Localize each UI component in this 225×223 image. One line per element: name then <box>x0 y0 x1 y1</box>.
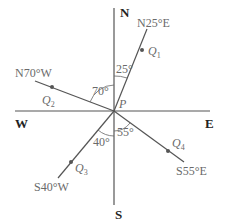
point-q3 <box>69 160 73 164</box>
point-label-q1: Q1 <box>148 44 161 60</box>
point-q2 <box>50 85 54 89</box>
label-south: S <box>115 207 122 222</box>
point-q4 <box>166 149 170 153</box>
label-north: N <box>120 5 130 20</box>
arc-25 <box>114 76 127 78</box>
label-east: E <box>205 116 214 131</box>
bearing-label-q4: S55°E <box>176 164 207 178</box>
label-p: P <box>118 97 127 111</box>
angle-label-25: 25° <box>116 62 133 76</box>
bearing-label-q3: S40°W <box>34 180 69 194</box>
point-q1 <box>140 48 144 52</box>
bearing-label-q2: N70°W <box>15 66 52 80</box>
angle-label-40: 40° <box>93 135 110 149</box>
bearing-label-q1: N25°E <box>137 16 170 30</box>
point-label-q3: Q3 <box>75 161 88 177</box>
point-label-q4: Q4 <box>172 136 185 152</box>
point-label-q2: Q2 <box>42 93 55 109</box>
compass-diagram: N S E W P N25°E N70°W S40°W S55°E Q1 Q2 … <box>0 0 225 223</box>
label-west: W <box>15 116 28 131</box>
angle-label-55: 55° <box>117 125 134 139</box>
angle-label-70: 70° <box>92 84 109 98</box>
